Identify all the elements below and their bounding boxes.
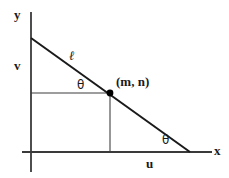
segment-label-v: v <box>14 59 21 72</box>
geometry-figure: y x ℓ (m, n) v u θ θ <box>0 0 229 178</box>
angle-label-theta-at-point: θ <box>77 79 84 91</box>
point-coordinate-label: (m, n) <box>116 75 149 88</box>
line-l-label: ℓ <box>69 49 74 62</box>
x-axis-label: x <box>214 144 221 157</box>
y-axis-label: y <box>14 8 21 21</box>
segment-label-u: u <box>146 157 153 170</box>
figure-canvas <box>0 0 229 178</box>
angle-label-theta-at-x-axis: θ <box>162 134 169 146</box>
point-m-n-marker <box>107 90 114 97</box>
